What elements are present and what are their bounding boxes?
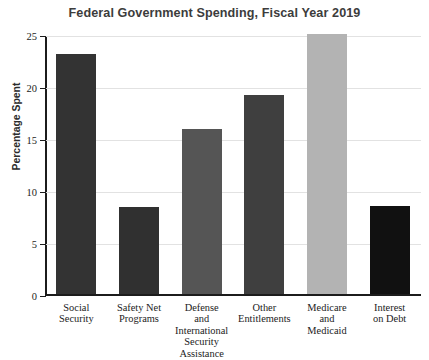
- x-axis-label-line: on Debt: [358, 313, 421, 324]
- x-axis-label-line: and: [296, 313, 359, 324]
- plot-area: 0510152025: [45, 36, 421, 296]
- y-tick-label: 10: [27, 187, 38, 198]
- x-axis-label-line: Interest: [358, 302, 421, 313]
- y-tick-label: 25: [27, 31, 38, 42]
- bar: [307, 34, 347, 294]
- x-axis-label-line: Other: [233, 302, 296, 313]
- tick-mark: [40, 88, 46, 89]
- x-axis-label-line: Entitlements: [233, 313, 296, 324]
- x-axis-line: [45, 294, 421, 296]
- tick-mark: [40, 296, 46, 297]
- x-axis-label-line: Safety Net: [108, 302, 171, 313]
- bar: [244, 95, 284, 294]
- y-tick-label: 15: [27, 135, 38, 146]
- x-axis-label-line: International: [170, 325, 233, 336]
- gridline: [45, 244, 421, 245]
- x-axis-label-line: Social: [45, 302, 108, 313]
- y-tick-label: 0: [32, 291, 37, 302]
- x-axis-label-line: Security: [170, 336, 233, 347]
- x-axis-label: SocialSecurity: [45, 302, 108, 325]
- x-axis-label: OtherEntitlements: [233, 302, 296, 325]
- y-axis-title: Percentage Spent: [11, 62, 22, 192]
- tick-mark: [40, 140, 46, 141]
- x-axis-label: Safety NetPrograms: [108, 302, 171, 325]
- x-axis-label-line: Programs: [108, 313, 171, 324]
- x-axis-label-line: Medicaid: [296, 325, 359, 336]
- tick-mark: [40, 244, 46, 245]
- gridline: [45, 88, 421, 89]
- bar: [119, 207, 159, 294]
- x-axis-label: DefenseandInternationalSecurityAssistanc…: [170, 302, 233, 359]
- gridline: [45, 36, 421, 37]
- tick-mark: [40, 36, 46, 37]
- bar-chart: Federal Government Spending, Fiscal Year…: [0, 0, 429, 360]
- gridline: [45, 140, 421, 141]
- x-axis-label-line: Defense: [170, 302, 233, 313]
- x-axis-label-line: Assistance: [170, 348, 233, 359]
- y-tick-label: 20: [27, 83, 38, 94]
- bar: [56, 54, 96, 294]
- x-axis-label-line: Security: [45, 313, 108, 324]
- y-axis-line: [45, 36, 47, 296]
- bar: [370, 206, 410, 294]
- x-axis-label-line: Medicare: [296, 302, 359, 313]
- x-axis-label: Intereston Debt: [358, 302, 421, 325]
- x-axis-label-line: and: [170, 313, 233, 324]
- tick-mark: [40, 192, 46, 193]
- chart-title: Federal Government Spending, Fiscal Year…: [0, 6, 429, 20]
- y-tick-label: 5: [32, 239, 37, 250]
- x-axis-label: MedicareandMedicaid: [296, 302, 359, 336]
- gridline: [45, 192, 421, 193]
- bar: [182, 129, 222, 294]
